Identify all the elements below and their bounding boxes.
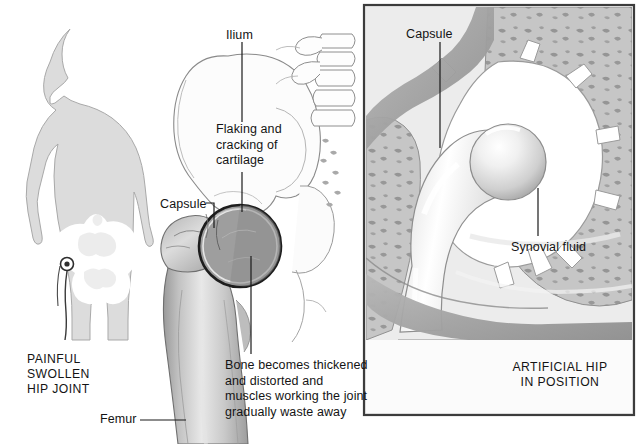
caption-painful-swollen-hip-joint: PAINFUL SWOLLEN HIP JOINT [27, 352, 90, 397]
right-panel-artwork [364, 5, 634, 415]
label-bone-thickened: Bone becomes thickened and distorted and… [225, 358, 368, 420]
label-capsule-prosthetic: Capsule [406, 27, 453, 43]
label-femur: Femur [100, 412, 137, 428]
caption-artificial-hip-in-position: ARTIFICIAL HIP IN POSITION [495, 360, 625, 390]
label-ilium: Ilium [226, 28, 253, 44]
hip-joint-illustration: Ilium Flaking and cracking of cartilage … [0, 0, 641, 444]
label-flaking-cracking-cartilage: Flaking and cracking of cartilage [216, 122, 282, 169]
label-capsule-center: Capsule [160, 197, 207, 213]
label-synovial-fluid: Synovial fluid [511, 240, 586, 256]
